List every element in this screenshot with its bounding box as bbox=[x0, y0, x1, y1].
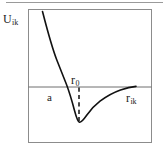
y-axis-label-subscript: ik bbox=[12, 18, 18, 27]
y-axis-label: Uik bbox=[3, 10, 18, 27]
plot-drawing-area bbox=[0, 0, 163, 156]
x-axis-label-subscript: ik bbox=[130, 97, 136, 106]
y-axis-label-base: U bbox=[3, 12, 12, 26]
x-axis-label: rik bbox=[126, 89, 137, 106]
potential-energy-curve bbox=[43, 12, 137, 123]
potential-energy-figure: Uik r0 a rik bbox=[0, 0, 163, 156]
zero-crossing-label: a bbox=[47, 88, 52, 104]
zero-crossing-label-base: a bbox=[47, 91, 52, 103]
equilibrium-label-subscript: 0 bbox=[75, 79, 79, 88]
equilibrium-distance-label: r0 bbox=[71, 71, 79, 88]
